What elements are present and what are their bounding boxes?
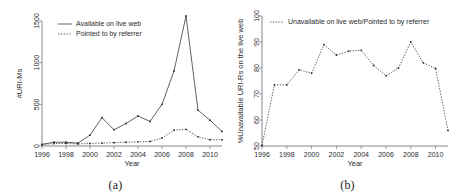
panel-b-caption: (b) <box>232 178 463 193</box>
y-axis-tick-label: 90 <box>253 38 260 46</box>
series-line-1 <box>262 42 448 145</box>
data-point <box>149 121 151 123</box>
data-point <box>77 143 79 145</box>
data-point <box>173 70 175 72</box>
data-point <box>185 15 187 17</box>
x-axis-tick-label: 2008 <box>178 151 194 158</box>
panel-b: 5060708090100199619982000200220042006200… <box>232 0 463 194</box>
data-point <box>125 141 127 143</box>
panel-a: 0500100015001996199820002002200420062008… <box>0 0 231 194</box>
x-axis-tick-label: 1998 <box>58 151 74 158</box>
data-point <box>261 145 263 147</box>
figure-two-panel: 0500100015001996199820002002200420062008… <box>0 0 463 194</box>
legend-label-1: Available on live web <box>76 20 141 27</box>
y-axis-tick-label: 80 <box>253 64 260 72</box>
data-point <box>336 54 338 56</box>
data-point <box>113 142 115 144</box>
y-axis-tick-label: 1000 <box>33 55 40 71</box>
x-axis-title: Year <box>347 159 363 168</box>
data-point <box>173 129 175 131</box>
data-point <box>385 75 387 77</box>
y-axis-tick-label: 60 <box>253 116 260 124</box>
y-axis-tick-label: 100 <box>253 10 260 22</box>
x-axis-tick-label: 2004 <box>353 151 369 158</box>
x-axis-tick-label: 2006 <box>378 151 394 158</box>
data-point <box>209 139 211 141</box>
data-point <box>286 84 288 86</box>
data-point <box>161 137 163 139</box>
x-axis-tick-label: 1996 <box>254 151 270 158</box>
x-axis-tick-label: 2002 <box>106 151 122 158</box>
data-point <box>41 144 43 146</box>
x-axis-tick-label: 2000 <box>82 151 98 158</box>
x-axis-tick-label: 1998 <box>279 151 295 158</box>
data-point <box>125 123 127 125</box>
chart-a-canvas: 0500100015001996199820002002200420062008… <box>0 0 231 194</box>
data-point <box>89 143 91 145</box>
data-point <box>101 117 103 119</box>
data-point <box>209 119 211 121</box>
data-point <box>274 84 276 86</box>
data-point <box>373 65 375 67</box>
y-axis-title: %Unavailable URI-Rs on the live web <box>236 19 245 144</box>
data-point <box>101 142 103 144</box>
data-point <box>360 49 362 51</box>
data-point <box>435 68 437 70</box>
x-axis-tick-label: 1996 <box>34 151 50 158</box>
data-point <box>149 141 151 143</box>
data-point <box>113 129 115 131</box>
data-point <box>53 143 55 145</box>
data-point <box>298 69 300 71</box>
data-point <box>161 103 163 105</box>
chart-b-canvas: 5060708090100199619982000200220042006200… <box>232 0 463 194</box>
data-point <box>422 62 424 64</box>
legend-label-1: Unavailable on live web/Pointed to by re… <box>288 18 430 26</box>
data-point <box>137 115 139 117</box>
y-axis-tick-label: 50 <box>253 142 260 150</box>
panel-a-caption: (a) <box>0 178 231 193</box>
data-point <box>447 130 449 132</box>
data-point <box>311 72 313 74</box>
data-point <box>348 50 350 52</box>
x-axis-tick-label: 2008 <box>403 151 419 158</box>
x-axis-tick-label: 2004 <box>130 151 146 158</box>
x-axis-title: Year <box>124 159 140 168</box>
data-point <box>323 44 325 46</box>
y-axis-title: #URI-Ms <box>15 68 24 98</box>
data-point <box>137 141 139 143</box>
x-axis-tick-label: 2000 <box>304 151 320 158</box>
data-point <box>65 143 67 145</box>
data-point <box>221 131 223 133</box>
x-axis-tick-label: 2010 <box>202 151 218 158</box>
x-axis-tick-label: 2010 <box>428 151 444 158</box>
data-point <box>197 109 199 111</box>
data-point <box>410 41 412 43</box>
y-axis-tick-label: 70 <box>253 90 260 98</box>
data-point <box>398 67 400 69</box>
data-point <box>197 136 199 138</box>
y-axis-tick-label: 500 <box>33 98 40 110</box>
y-axis-tick-label: 1500 <box>33 13 40 29</box>
legend-label-2: Pointed to by referrer <box>76 30 142 38</box>
data-point <box>185 128 187 130</box>
data-point <box>89 134 91 136</box>
y-axis-tick-label: 0 <box>33 144 40 148</box>
data-point <box>221 139 223 141</box>
x-axis-tick-label: 2006 <box>154 151 170 158</box>
x-axis-tick-label: 2002 <box>329 151 345 158</box>
